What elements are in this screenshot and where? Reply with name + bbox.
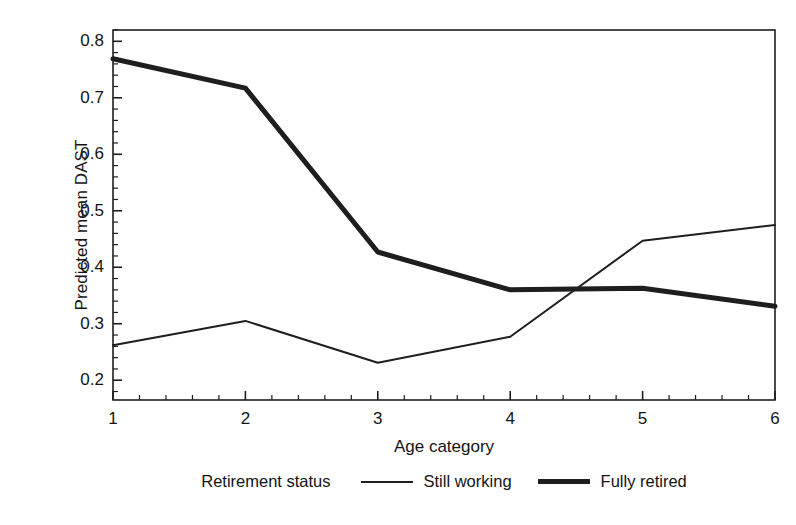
x-tick-label: 1 — [93, 409, 133, 429]
legend-entry-label: Still working — [424, 472, 512, 491]
x-axis-title: Age category — [113, 437, 775, 457]
legend-line-swatch-icon — [538, 479, 590, 484]
x-tick-label: 5 — [623, 409, 663, 429]
x-tick-label: 3 — [358, 409, 398, 429]
x-tick-label: 2 — [225, 409, 265, 429]
chart-figure: Predicted mean DAST 0.20.30.40.50.60.70.… — [0, 0, 796, 525]
legend-title: Retirement status — [201, 472, 330, 491]
legend-entry: Still working — [361, 472, 512, 491]
legend-entry-label: Fully retired — [601, 472, 687, 491]
legend-line-swatch-icon — [361, 481, 413, 483]
legend-entry: Fully retired — [538, 472, 687, 491]
x-tick-label: 6 — [755, 409, 795, 429]
x-tick-label: 4 — [490, 409, 530, 429]
chart-legend: Retirement status Still workingFully ret… — [113, 472, 775, 491]
